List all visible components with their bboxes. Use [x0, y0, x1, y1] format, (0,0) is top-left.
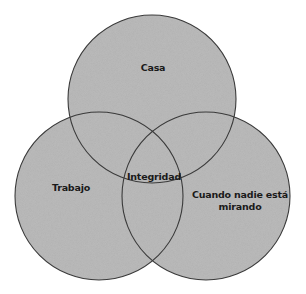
venn-diagram: Casa Integridad Trabajo Cuando nadie est…	[0, 0, 306, 294]
label-cuando-nadie-esta-mirando-line1: Cuando nadie está	[192, 189, 288, 200]
label-integridad: Integridad	[127, 171, 181, 182]
label-casa: Casa	[141, 62, 166, 73]
label-trabajo: Trabajo	[52, 182, 91, 193]
label-cuando-nadie-esta-mirando-line2: mirando	[219, 201, 263, 212]
venn-fills	[15, 15, 290, 280]
